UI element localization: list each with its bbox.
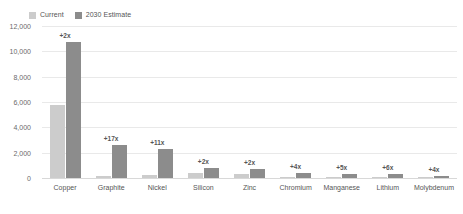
y-axis-tick: 2,000 — [0, 149, 31, 156]
bar-current — [142, 175, 157, 178]
y-axis-tick: 6,000 — [0, 99, 31, 106]
bar-multiplier-label: +4x — [273, 163, 319, 170]
bar-multiplier-label: +11x — [134, 139, 180, 146]
x-axis-label: Silicon — [180, 184, 226, 192]
bar-estimate — [250, 169, 265, 178]
bar-current — [234, 174, 249, 178]
x-axis-label: Zinc — [226, 184, 272, 192]
chart-legend: Current 2030 Estimate — [29, 9, 131, 21]
legend-label-current: Current — [40, 11, 64, 19]
bar-current — [188, 173, 203, 178]
bar-group: +2x — [42, 26, 88, 178]
bar-estimate — [388, 174, 403, 178]
bar-current — [50, 105, 65, 178]
x-axis-label: Chromium — [273, 184, 319, 192]
y-axis-tick: 0 — [0, 175, 31, 182]
bar-group: +6x — [365, 26, 411, 178]
bar-chart: Current 2030 Estimate 02,0004,0006,0008,… — [0, 0, 463, 214]
bar-multiplier-label: +5x — [319, 164, 365, 171]
bar-current — [418, 177, 433, 178]
x-axis-label: Molybdenum — [411, 184, 457, 192]
x-axis-label: Manganese — [319, 184, 365, 192]
bar-estimate — [204, 168, 219, 178]
legend-item-current: Current — [29, 11, 64, 19]
bar-estimate — [296, 173, 311, 178]
y-axis-tick: 4,000 — [0, 124, 31, 131]
bar-group: +17x — [88, 26, 134, 178]
x-axis-labels: CopperGraphiteNickelSiliconZincChromiumM… — [42, 184, 457, 192]
bar-multiplier-label: +2x — [180, 158, 226, 165]
bar-estimate — [66, 42, 81, 178]
bar-group: +4x — [411, 26, 457, 178]
bar-current — [372, 177, 387, 178]
plot-area: 02,0004,0006,0008,00010,00012,000 +2x+17… — [42, 26, 457, 178]
y-axis-tick: 12,000 — [0, 23, 31, 30]
legend-swatch-estimate — [75, 12, 82, 19]
x-axis-label: Graphite — [88, 184, 134, 192]
bar-group: +4x — [273, 26, 319, 178]
x-axis-label: Nickel — [134, 184, 180, 192]
legend-swatch-current — [29, 12, 36, 19]
bar-current — [96, 176, 111, 178]
y-axis-tick: 10,000 — [0, 48, 31, 55]
legend-label-estimate: 2030 Estimate — [86, 11, 131, 19]
bar-group: +2x — [226, 26, 272, 178]
bar-group: +2x — [180, 26, 226, 178]
bar-estimate — [158, 149, 173, 178]
legend-item-estimate: 2030 Estimate — [75, 11, 131, 19]
bar-group: +5x — [319, 26, 365, 178]
bar-estimate — [434, 176, 449, 178]
y-axis-tick: 8,000 — [0, 73, 31, 80]
bar-multiplier-label: +4x — [411, 166, 457, 173]
bar-estimate — [112, 145, 127, 178]
bar-multiplier-label: +6x — [365, 164, 411, 171]
bar-multiplier-label: +2x — [226, 159, 272, 166]
bar-multiplier-label: +2x — [42, 32, 88, 39]
bar-multiplier-label: +17x — [88, 135, 134, 142]
bar-groups: +2x+17x+11x+2x+2x+4x+5x+6x+4x — [42, 26, 457, 178]
bar-estimate — [342, 174, 357, 178]
bar-group: +11x — [134, 26, 180, 178]
gridline — [42, 178, 457, 179]
bar-current — [326, 177, 341, 178]
bar-current — [280, 177, 295, 178]
x-axis-label: Lithium — [365, 184, 411, 192]
x-axis-label: Copper — [42, 184, 88, 192]
